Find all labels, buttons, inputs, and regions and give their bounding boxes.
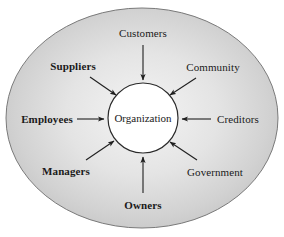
stakeholder-label-owners: Owners <box>124 200 161 211</box>
stakeholder-label-suppliers: Suppliers <box>50 61 96 72</box>
stakeholder-label-employees: Employees <box>21 114 73 125</box>
stakeholder-label-customers: Customers <box>119 28 167 39</box>
stakeholder-diagram: Organization CustomersCommunityCreditors… <box>0 0 284 237</box>
stakeholder-label-community: Community <box>186 62 239 73</box>
stakeholder-label-creditors: Creditors <box>217 114 259 125</box>
stakeholder-label-government: Government <box>187 167 243 178</box>
stakeholder-label-managers: Managers <box>42 166 90 177</box>
organization-label: Organization <box>114 113 171 124</box>
